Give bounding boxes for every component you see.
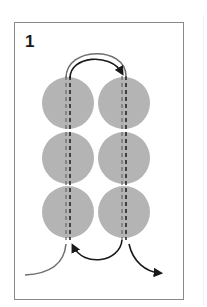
bead-right-3: [98, 186, 150, 238]
bead-left-2: [42, 132, 94, 184]
diagram-canvas: 1: [0, 0, 207, 307]
bead-right-2: [98, 132, 150, 184]
exit-curve: [129, 244, 160, 273]
top-arc-arrow: [66, 54, 126, 78]
inner-arc: [70, 59, 122, 78]
bead-right-1: [98, 77, 150, 129]
bead-left-1: [42, 77, 94, 129]
stitch-diagram: [0, 0, 207, 307]
tail-curve: [25, 244, 66, 275]
beads: [42, 77, 150, 238]
bead-left-3: [42, 186, 94, 238]
bottom-return-arrow: [73, 240, 122, 260]
thread-tail: [25, 244, 66, 275]
exit-arrow: [129, 244, 160, 273]
return-arc: [73, 240, 122, 260]
